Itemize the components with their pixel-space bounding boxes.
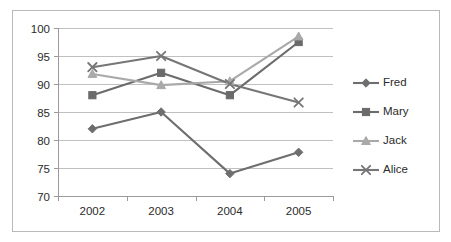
chart-legend: FredMaryJackAlice xyxy=(353,76,409,175)
series-line-fred xyxy=(92,112,298,174)
y-axis-tick-label: 70 xyxy=(37,191,50,203)
data-point-fred-2005 xyxy=(294,148,302,156)
x-axis-tick-label: 2004 xyxy=(217,205,243,217)
y-axis-tick-label: 80 xyxy=(37,135,50,147)
legend-marker-mary xyxy=(362,108,369,115)
y-axis-tick-label: 75 xyxy=(37,163,50,175)
x-axis-tick-labels: 2002200320042005 xyxy=(80,205,312,217)
x-axis-tick-label: 2003 xyxy=(148,205,174,217)
y-axis-tick-label: 95 xyxy=(37,51,50,63)
data-point-jack-2005 xyxy=(294,32,303,40)
x-axis-tick-label: 2005 xyxy=(286,205,312,217)
plot-area: 707580859095100 2002200320042005 FredMar… xyxy=(13,11,441,233)
line-chart: 707580859095100 2002200320042005 FredMar… xyxy=(13,11,441,233)
legend-label-fred: Fred xyxy=(383,76,407,88)
y-axis-tick-labels: 707580859095100 xyxy=(31,23,50,203)
legend-label-alice: Alice xyxy=(383,163,408,175)
y-axis-tick-label: 100 xyxy=(31,23,50,35)
data-point-mary-2004 xyxy=(226,92,233,99)
chart-container: 707580859095100 2002200320042005 FredMar… xyxy=(12,10,440,232)
legend-label-mary: Mary xyxy=(383,105,409,117)
axes xyxy=(54,28,334,201)
data-point-fred-2002 xyxy=(88,125,96,133)
y-axis-tick-label: 90 xyxy=(37,79,50,91)
series-line-jack xyxy=(92,36,298,85)
y-axis-tick-label: 85 xyxy=(37,107,50,119)
data-point-mary-2002 xyxy=(89,92,96,99)
series-line-mary xyxy=(92,42,298,95)
x-axis-tick-label: 2002 xyxy=(80,205,106,217)
data-point-mary-2003 xyxy=(158,69,165,76)
gridlines xyxy=(58,29,333,197)
legend-label-jack: Jack xyxy=(383,134,407,146)
legend-marker-fred xyxy=(362,79,370,87)
